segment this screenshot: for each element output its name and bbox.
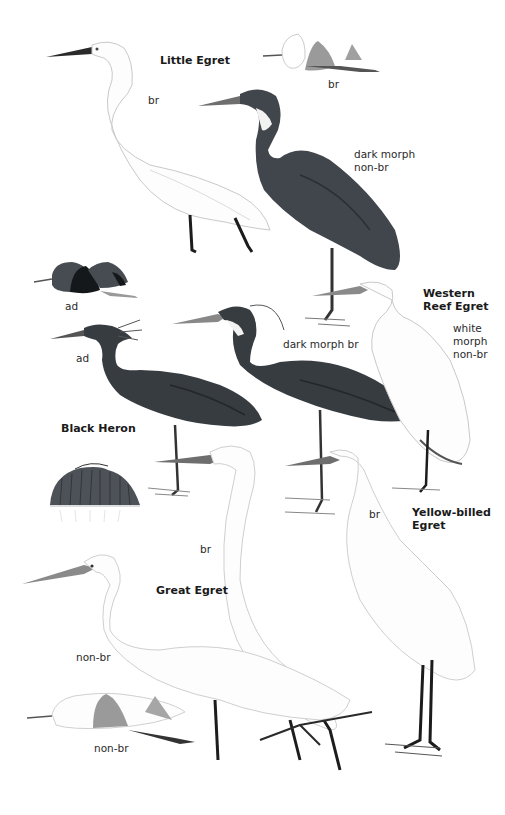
- field-guide-plate: Little Egret br br dark morph non-br ad …: [0, 0, 505, 815]
- great-egret-flight-nonbr-label: non-br: [94, 742, 129, 755]
- yellow-billed-br-label: br: [369, 508, 380, 521]
- yellow-billed-title: Yellow-billed Egret: [412, 506, 491, 532]
- black-heron-flight-ad-label: ad: [65, 300, 78, 313]
- great-egret-br-illustration: [154, 446, 340, 770]
- little-egret-flight-br-label: br: [328, 78, 339, 91]
- little-egret-title: Little Egret: [160, 54, 230, 67]
- little-egret-dark-morph-label: dark morph non-br: [354, 148, 415, 174]
- bird-illustrations: [0, 0, 505, 815]
- little-egret-br-label: br: [148, 94, 159, 107]
- black-heron-ad-label: ad: [76, 352, 89, 365]
- great-egret-title: Great Egret: [156, 584, 228, 597]
- black-heron-flight-illustration: [34, 262, 138, 298]
- little-egret-flight-illustration: [263, 34, 380, 72]
- little-egret-br-illustration: [46, 42, 270, 252]
- great-egret-nonbr-label: non-br: [76, 651, 111, 664]
- reef-egret-title: Western Reef Egret: [423, 287, 489, 313]
- reef-egret-dark-br-label: dark morph br: [283, 338, 358, 351]
- great-egret-flight-illustration: [27, 693, 195, 744]
- black-heron-title: Black Heron: [61, 422, 136, 435]
- great-egret-br-label: br: [200, 543, 211, 556]
- reef-egret-white-label: white morph non-br: [453, 322, 488, 361]
- black-heron-canopy-illustration: [50, 464, 140, 522]
